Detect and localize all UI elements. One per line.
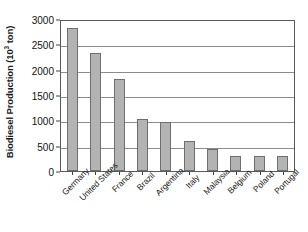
y-axis-tick: 1500 — [32, 91, 60, 102]
x-axis-tick-label-portugal: Portugal — [272, 167, 301, 196]
x-axis-tick-slot: France — [107, 172, 131, 232]
y-axis-tick-label: 2500 — [32, 40, 54, 51]
y-axis-title-text: Biodiesel Production (103 ton) — [3, 26, 15, 159]
x-axis-tick-mark — [283, 172, 284, 175]
x-axis-tick-mark — [166, 172, 167, 175]
y-axis-tick-label: 1000 — [32, 116, 54, 127]
y-axis-tick: 2500 — [32, 40, 60, 51]
x-axis-tick-mark — [142, 172, 143, 175]
x-axis-tick-slot: Poland — [248, 172, 272, 232]
x-axis-tick-mark — [260, 172, 261, 175]
biodiesel-production-bar-chart: Biodiesel Production (103 ton) 300025002… — [0, 0, 308, 232]
y-axis-tick-label: 1500 — [32, 91, 54, 102]
y-axis-tick-label: 2000 — [32, 65, 54, 76]
y-axis-tick: 1000 — [32, 116, 60, 127]
bar-slot — [108, 21, 131, 171]
y-axis-tick: 0 — [48, 167, 60, 178]
bar-poland[interactable] — [254, 156, 265, 171]
bar-slot — [247, 21, 270, 171]
y-axis-title-exponent: 3 — [3, 46, 10, 50]
bar-brazil[interactable] — [137, 119, 148, 171]
bar-germany[interactable] — [67, 28, 78, 171]
y-axis-title: Biodiesel Production (103 ton) — [0, 0, 18, 185]
bars-container — [61, 21, 294, 171]
x-axis-tick-label-italy: Italy — [184, 173, 202, 191]
x-axis-tick-mark — [189, 172, 190, 175]
bar-slot — [154, 21, 177, 171]
x-axis-tick-mark — [236, 172, 237, 175]
x-axis-tick-slot: Brazil — [131, 172, 155, 232]
x-axis-tick-mark — [119, 172, 120, 175]
bar-slot — [61, 21, 84, 171]
y-axis-title-base: Biodiesel Production (10 — [4, 50, 15, 159]
bar-slot — [201, 21, 224, 171]
y-axis-tick: 500 — [37, 141, 60, 152]
plot-area — [60, 20, 295, 172]
bar-united-states[interactable] — [90, 53, 101, 171]
bar-italy[interactable] — [184, 141, 195, 171]
y-axis-tick: 2000 — [32, 65, 60, 76]
x-axis-tick-slot: Germany — [60, 172, 84, 232]
bar-portugal[interactable] — [277, 156, 288, 171]
x-axis-tick-slot: Portugal — [272, 172, 296, 232]
x-axis-tick-labels: GermanyUnited StatesFranceBrazilArgentin… — [60, 172, 295, 232]
bar-malaysia[interactable] — [207, 149, 218, 171]
bar-argentina[interactable] — [160, 122, 171, 171]
bar-slot — [177, 21, 200, 171]
bar-belgium[interactable] — [230, 156, 241, 171]
bar-slot — [224, 21, 247, 171]
x-axis-tick-slot: Italy — [178, 172, 202, 232]
x-axis-tick-mark — [72, 172, 73, 175]
y-axis-tick-label: 3000 — [32, 15, 54, 26]
x-axis-tick-slot: Argentina — [154, 172, 178, 232]
bar-slot — [131, 21, 154, 171]
bar-slot — [84, 21, 107, 171]
bar-slot — [271, 21, 294, 171]
y-axis-tick: 3000 — [32, 15, 60, 26]
x-axis-tick-slot: Belgium — [225, 172, 249, 232]
y-axis-tick-label: 0 — [48, 167, 54, 178]
x-axis-tick-mark — [213, 172, 214, 175]
y-axis-title-tail: ton) — [4, 26, 15, 46]
x-axis-tick-mark — [95, 172, 96, 175]
y-axis-tick-labels: 300025002000150010005000 — [18, 20, 60, 172]
y-axis-tick-label: 500 — [37, 141, 54, 152]
x-axis-tick-slot: United States — [84, 172, 108, 232]
bar-france[interactable] — [114, 79, 125, 171]
x-axis-tick-slot: Malaysia — [201, 172, 225, 232]
